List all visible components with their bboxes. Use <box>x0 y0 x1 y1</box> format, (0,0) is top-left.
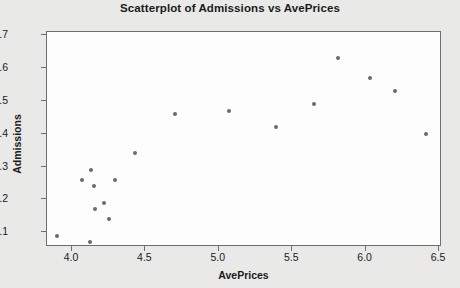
data-point <box>393 89 397 93</box>
x-tick-mark <box>144 246 145 251</box>
y-tick-label: 1.4 <box>0 127 8 139</box>
data-point <box>274 125 278 129</box>
x-tick-mark <box>71 246 72 251</box>
data-point <box>102 201 106 205</box>
data-point <box>88 240 92 244</box>
y-tick-label: 1.1 <box>0 225 8 237</box>
data-point <box>227 109 231 113</box>
data-point <box>133 151 137 155</box>
scatter-chart: Scatterplot of Admissions vs AvePrices A… <box>0 0 460 288</box>
data-point <box>89 168 93 172</box>
x-tick-mark <box>291 246 292 251</box>
chart-title: Scatterplot of Admissions vs AvePrices <box>0 2 460 14</box>
y-axis-title: Admissions <box>11 89 23 199</box>
x-tick-label: 6.0 <box>343 251 387 263</box>
x-tick-label: 4.5 <box>122 251 166 263</box>
data-point <box>55 234 59 238</box>
x-axis-title: AvePrices <box>46 269 441 281</box>
x-tick-label: 6.5 <box>416 251 460 263</box>
data-point <box>92 184 96 188</box>
y-tick-label: 1.7 <box>0 28 8 40</box>
x-tick-mark <box>218 246 219 251</box>
y-tick-label: 1.3 <box>0 160 8 172</box>
x-tick-label: 4.0 <box>49 251 93 263</box>
data-point <box>113 178 117 182</box>
y-tick-label: 1.6 <box>0 61 8 73</box>
data-point <box>368 76 372 80</box>
x-tick-label: 5.5 <box>269 251 313 263</box>
data-point <box>424 132 428 136</box>
data-point <box>336 56 340 60</box>
data-point <box>93 207 97 211</box>
y-tick-label: 1.2 <box>0 192 8 204</box>
data-point <box>107 217 111 221</box>
data-point <box>80 178 84 182</box>
data-points-layer <box>47 32 440 245</box>
data-point <box>173 112 177 116</box>
x-tick-mark <box>438 246 439 251</box>
data-point <box>312 102 316 106</box>
y-tick-label: 1.5 <box>0 94 8 106</box>
x-tick-mark <box>365 246 366 251</box>
plot-area <box>46 31 441 246</box>
x-tick-label: 5.0 <box>196 251 240 263</box>
